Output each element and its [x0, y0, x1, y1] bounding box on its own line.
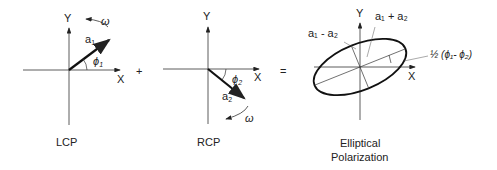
rcp-y-label: Y — [203, 11, 210, 22]
plus-operator: + — [136, 66, 142, 77]
rcp-phi2-label: ϕ2 — [232, 74, 242, 86]
elliptical-caption-1: Elliptical — [340, 138, 380, 149]
polarization-diagram: Y X a1 ϕ1 ω + Y X a2 ϕ2 ω = Y X a₁ + a₂ … — [0, 0, 497, 170]
lcp-angle-arc — [83, 59, 87, 70]
elliptical-y-label: Y — [356, 8, 363, 19]
elliptical-caption-2: Polarization — [331, 152, 388, 163]
minor-axis-label: a₁ - a₂ — [308, 28, 338, 39]
equals-operator: = — [280, 66, 286, 77]
lcp-omega-label: ω — [101, 16, 110, 27]
rcp-a2-label: a2 — [222, 91, 232, 103]
rcp-axes — [163, 27, 259, 124]
rcp-x-label: X — [254, 72, 261, 83]
major-axis-label: a₁ + a₂ — [375, 11, 408, 22]
lcp-caption: LCP — [56, 137, 77, 148]
elliptical-x-label: X — [408, 71, 415, 82]
rcp-angle-arc — [222, 69, 226, 80]
lcp-x-label: X — [117, 74, 124, 85]
rcp-caption: RCP — [197, 137, 220, 148]
lcp-y-label: Y — [64, 13, 71, 24]
tilt-angle-label: ½ (ϕ₁- ϕ₂) — [430, 50, 472, 60]
lcp-a1-label: a1 — [85, 34, 95, 46]
rcp-omega-label: ω — [245, 113, 254, 124]
lcp-phi1-label: ϕ1 — [93, 56, 103, 68]
